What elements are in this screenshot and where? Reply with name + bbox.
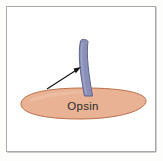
opsin-label: Opsin [67, 100, 99, 112]
diagram-canvas: Opsin [0, 0, 163, 161]
figure-container: Opsin [0, 0, 163, 161]
